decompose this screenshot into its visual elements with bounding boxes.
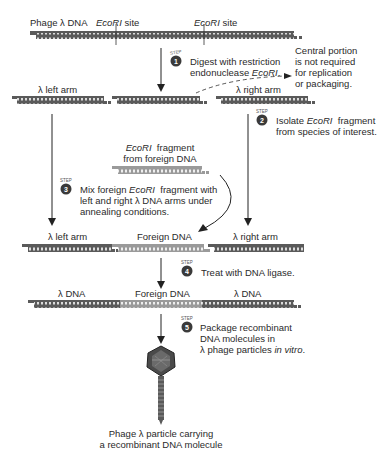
left-arm-label: λ left arm [38,84,77,95]
row4-foreign-dna-label: Foreign DNA [135,288,190,299]
foreign-fragment-strand [112,166,209,174]
svg-text:1: 1 [174,58,178,65]
foreign-fragment-label: EcoRI fragment from foreign DNA [112,142,208,164]
svg-text:5: 5 [185,324,189,331]
step-4-badge: STEP 4 [179,258,199,278]
svg-text:STEP: STEP [181,316,193,321]
ecori-site-2-label: EcoRI site [194,17,237,28]
left-arm-strand [12,96,111,104]
step-4-text: Treat with DNA ligase. [201,267,295,278]
phage-lambda-dna-label: Phage λ DNA [30,17,88,28]
central-portion-strand [112,96,207,104]
right-arm-strand [216,96,315,104]
svg-text:STEP: STEP [256,109,268,114]
step-2-text: Isolate EcoRI fragment from species of i… [276,115,377,137]
right-arm-label: λ right arm [236,84,281,95]
row4-left-lambda-label: λ DNA [58,288,85,299]
row3-foreign-dna-label: Foreign DNA [137,231,192,242]
svg-text:2: 2 [260,117,264,124]
step-1-text: Digest with restriction endonuclease Eco… [190,56,280,78]
row4-right-lambda-label: λ DNA [234,288,261,299]
svg-text:STEP: STEP [170,49,182,56]
step-5-badge: STEP 5 [179,314,199,334]
svg-text:3: 3 [64,186,68,193]
step-2-badge: STEP 2 [254,107,274,127]
step-3-text: Mix foreign EcoRI fragment with left and… [80,184,217,217]
row3-left-arm-label: λ left arm [48,231,87,242]
ecori-site-1-label: EcoRI site [96,17,139,28]
recombinant-dna-strand [28,300,301,308]
row3-right-arm-label: λ right arm [233,231,278,242]
central-portion-note: Central portion is not required for repl… [295,45,357,89]
svg-text:STEP: STEP [60,178,72,183]
svg-text:4: 4 [185,268,189,275]
step-1-badge: STEP 1 [168,48,188,68]
phage-particle-caption: Phage λ particle carrying a recombinant … [90,428,232,450]
phage-particle-icon [147,346,175,425]
annealed-strand [22,244,304,252]
step-5-text: Package recombinant DNA molecules in λ p… [200,322,305,355]
step-3-badge: STEP 3 [58,176,78,196]
svg-text:STEP: STEP [181,260,193,265]
